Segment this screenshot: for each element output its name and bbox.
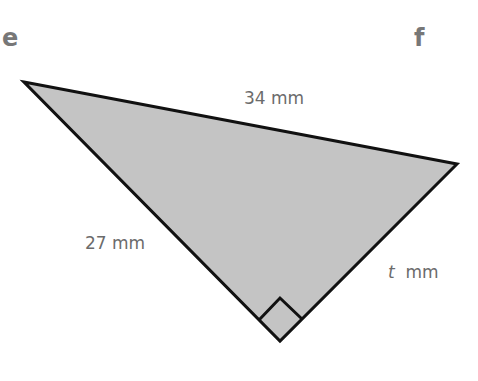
left-leg-length-label: 27 mm	[85, 233, 145, 253]
right-leg-length-label: t mm	[388, 262, 439, 282]
right-triangle	[24, 82, 457, 341]
right-leg-unit: mm	[405, 262, 438, 282]
triangle-figure	[0, 0, 478, 381]
corner-label-f: f	[414, 24, 424, 52]
hypotenuse-length-label: 34 mm	[244, 88, 304, 108]
right-leg-variable: t	[388, 262, 395, 282]
corner-label-e: e	[2, 24, 18, 52]
